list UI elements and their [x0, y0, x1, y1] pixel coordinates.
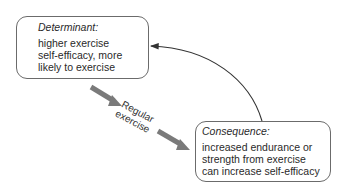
determinant-title: Determinant:	[38, 21, 148, 34]
determinant-text: higher exercise self-efficacy, more like…	[38, 37, 148, 73]
determinant-line: likely to exercise	[38, 61, 148, 73]
consequence-line: can increase self-efficacy	[202, 165, 330, 177]
determinant-box: Determinant: higher exercise self-effica…	[16, 16, 149, 79]
regular-exercise-arrow-2	[158, 131, 190, 150]
determinant-line: self-efficacy, more	[38, 49, 148, 61]
consequence-text: increased endurance or strength from exe…	[202, 141, 330, 177]
feedback-arrow	[151, 46, 262, 121]
consequence-title: Consequence:	[202, 125, 330, 138]
determinant-line: higher exercise	[38, 37, 148, 49]
consequence-line: increased endurance or	[202, 141, 330, 153]
consequence-box: Consequence: increased endurance or stre…	[195, 121, 331, 182]
regular-exercise-arrow-1	[91, 87, 122, 106]
consequence-line: strength from exercise	[202, 153, 330, 165]
